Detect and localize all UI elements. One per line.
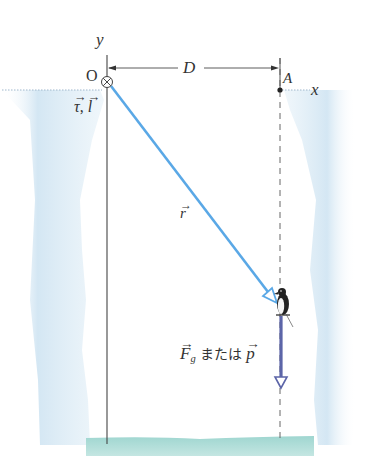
position-vector-label: r: [180, 205, 186, 222]
distance-label: D: [183, 58, 195, 78]
x-axis-label: x: [311, 80, 319, 100]
origin-into-page-icon: [102, 77, 113, 88]
torque-symbol: τ: [74, 98, 80, 116]
position-vector-r: [111, 86, 268, 292]
force-label: Fg または p: [180, 343, 255, 364]
origin-label: O: [86, 67, 98, 85]
angular-momentum-symbol: l: [88, 98, 92, 116]
torque-angular-momentum-label: τ, l: [74, 98, 92, 116]
force-vector-arrowhead-icon: [275, 377, 287, 388]
ice-wall-left: [2, 90, 104, 445]
momentum-symbol: p: [246, 344, 255, 364]
or-text: または: [200, 346, 242, 362]
point-a-dot: [277, 87, 282, 92]
penguin-icon: [274, 288, 293, 327]
gravity-force-symbol: F: [180, 344, 190, 364]
point-a-label: A: [283, 70, 292, 87]
y-axis-label: y: [96, 30, 104, 50]
ice-wall-right: [284, 90, 356, 445]
water-surface: [86, 436, 314, 456]
diagram-canvas: y O D A x τ, l r Fg または p: [0, 0, 369, 468]
arrowhead-left-icon: [108, 66, 116, 71]
arrowhead-right-icon: [271, 66, 279, 71]
